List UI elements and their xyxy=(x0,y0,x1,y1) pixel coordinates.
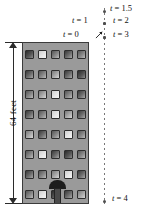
building-window xyxy=(77,130,86,139)
building-window xyxy=(51,110,60,119)
building-window xyxy=(77,90,86,99)
time-label: t = 2 xyxy=(113,15,129,25)
trajectory-marker xyxy=(103,36,106,39)
building-floor-row xyxy=(23,104,88,124)
building-window xyxy=(64,190,73,199)
projectile-diagram: 64 feet t = 1.5t = 1t = 2t = 0t = 3t = 4 xyxy=(0,0,144,216)
building-window xyxy=(51,90,60,99)
building-window xyxy=(25,190,34,199)
trajectory-marker xyxy=(103,10,106,13)
time-label: t = 1.5 xyxy=(110,3,132,13)
building-window xyxy=(64,170,73,179)
building-window xyxy=(25,130,34,139)
building-window xyxy=(38,90,47,99)
building-window xyxy=(25,90,34,99)
building-window xyxy=(77,110,86,119)
building-window xyxy=(51,150,60,159)
front-door xyxy=(54,188,61,203)
building-window xyxy=(64,90,73,99)
dimension-cap-bottom xyxy=(5,203,22,204)
building-window xyxy=(77,170,86,179)
building-window xyxy=(38,70,47,79)
building-floor-row xyxy=(23,84,88,104)
building-floor-row xyxy=(23,64,88,84)
time-label: t = 3 xyxy=(113,29,129,39)
time-label: t = 1 xyxy=(72,15,88,25)
building-window xyxy=(25,150,34,159)
building-window xyxy=(64,50,73,59)
building-window xyxy=(51,70,60,79)
building-window xyxy=(51,50,60,59)
building-window xyxy=(25,50,34,59)
building-window xyxy=(77,150,86,159)
dimension-label-height: 64 feet xyxy=(8,87,18,139)
building-window xyxy=(38,170,47,179)
building-floor-row xyxy=(23,124,88,144)
building-window xyxy=(25,170,34,179)
building-window xyxy=(38,190,47,199)
building-window xyxy=(51,130,60,139)
building-window xyxy=(77,50,86,59)
building-window xyxy=(38,110,47,119)
building-window xyxy=(38,150,47,159)
building-floor-row xyxy=(23,144,88,164)
time-label: t = 0 xyxy=(63,29,79,39)
building-window xyxy=(38,50,47,59)
building-window xyxy=(25,70,34,79)
building-window xyxy=(38,130,47,139)
building-window xyxy=(64,150,73,159)
building-window xyxy=(51,170,60,179)
building xyxy=(22,42,89,204)
time-label: t = 4 xyxy=(112,193,128,203)
building-window xyxy=(64,130,73,139)
building-window xyxy=(25,110,34,119)
building-window xyxy=(77,70,86,79)
building-window xyxy=(77,190,86,199)
building-floor-row xyxy=(23,44,88,64)
building-window xyxy=(64,70,73,79)
trajectory-marker xyxy=(103,22,106,25)
trajectory-marker xyxy=(103,200,106,203)
building-window xyxy=(64,110,73,119)
